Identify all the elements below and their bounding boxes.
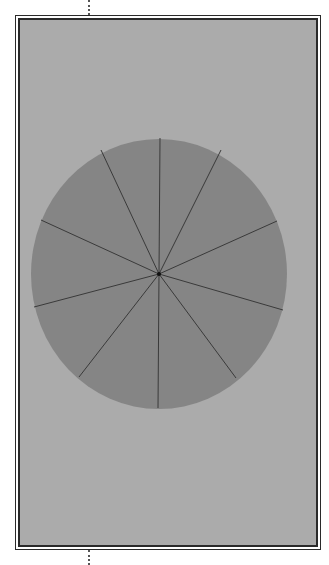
- segmented-disk: [0, 0, 329, 565]
- disk-hub: [157, 272, 161, 276]
